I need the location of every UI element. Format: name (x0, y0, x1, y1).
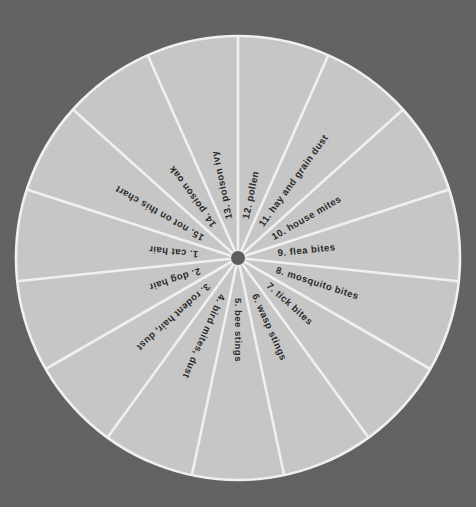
slice-label: 5. bee stings (233, 298, 244, 362)
allergy-wheel-chart[interactable]: 12. pollen11. hay and grain dust10. hous… (0, 0, 476, 507)
chart-canvas: 12. pollen11. hay and grain dust10. hous… (0, 0, 476, 507)
wheel-hub[interactable] (231, 251, 245, 265)
